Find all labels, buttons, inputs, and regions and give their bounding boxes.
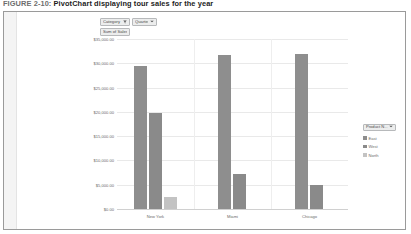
pivot-field-button-category[interactable]: Category (100, 18, 130, 26)
chevron-down-icon (389, 124, 393, 130)
pivot-value-button-label: Sum of Sales (103, 29, 127, 35)
pivot-field-button-quarter[interactable]: Quarter (132, 18, 157, 26)
y-axis-tick-label: $30,000.00 (94, 61, 115, 66)
x-axis-tick-label: Miami (227, 214, 238, 219)
bar-group (117, 39, 194, 209)
figure-number: FIGURE 2-10: (3, 0, 51, 8)
legend-field-button[interactable]: Product N... (363, 124, 396, 131)
pivot-value-button-sum-of-sales[interactable]: Sum of Sales (100, 28, 130, 36)
chevron-down-icon (149, 19, 154, 24)
x-axis-tick-label: New York (147, 214, 164, 219)
figure-title: PivotChart displaying tour sales for the… (54, 0, 214, 8)
legend-item: West (363, 144, 403, 149)
chart-legend[interactable]: Product N... EastWestNorth (363, 114, 403, 158)
sheet-left-margin (4, 12, 17, 229)
plot-area: $35,000.00$30,000.00$25,000.00$20,000.00… (117, 39, 348, 209)
y-axis-tick-label: $0.00 (104, 207, 114, 212)
bar[interactable] (149, 113, 162, 209)
legend-item: East (363, 136, 403, 141)
legend-item-label: East (369, 136, 377, 141)
x-axis-tick-label: Chicago (302, 214, 317, 219)
bar[interactable] (134, 66, 147, 209)
legend-swatch (363, 136, 367, 140)
worksheet-window: Category Quarter Sum of Sales $35,000.00… (3, 11, 406, 230)
legend-swatch (363, 145, 367, 149)
pivot-field-button-category-label: Category (103, 19, 121, 25)
bar-group (271, 39, 348, 209)
gridline (117, 209, 348, 210)
bar[interactable] (218, 55, 231, 209)
y-axis-tick-label: $10,000.00 (94, 158, 115, 163)
legend-item: North (363, 153, 403, 158)
filter-icon (122, 19, 127, 24)
bar[interactable] (295, 54, 308, 209)
y-axis-tick-label: $20,000.00 (94, 109, 115, 114)
y-axis-tick-label: $25,000.00 (94, 85, 115, 90)
pivotchart[interactable]: Category Quarter Sum of Sales $35,000.00… (18, 13, 405, 229)
legend-item-label: West (369, 144, 378, 149)
y-axis-tick-label: $15,000.00 (94, 134, 115, 139)
bar[interactable] (164, 197, 177, 209)
legend-item-label: North (369, 153, 379, 158)
legend-swatch (363, 153, 367, 157)
bar[interactable] (310, 185, 323, 209)
bar[interactable] (233, 174, 246, 209)
y-axis-tick-label: $5,000.00 (96, 182, 114, 187)
pivot-field-button-quarter-label: Quarter (135, 19, 148, 25)
legend-items: EastWestNorth (363, 136, 403, 158)
figure-caption: FIGURE 2-10: PivotChart displaying tour … (3, 0, 213, 8)
bar-group (194, 39, 271, 209)
y-axis-tick-label: $35,000.00 (94, 37, 115, 42)
legend-title-label: Product N... (366, 124, 388, 130)
